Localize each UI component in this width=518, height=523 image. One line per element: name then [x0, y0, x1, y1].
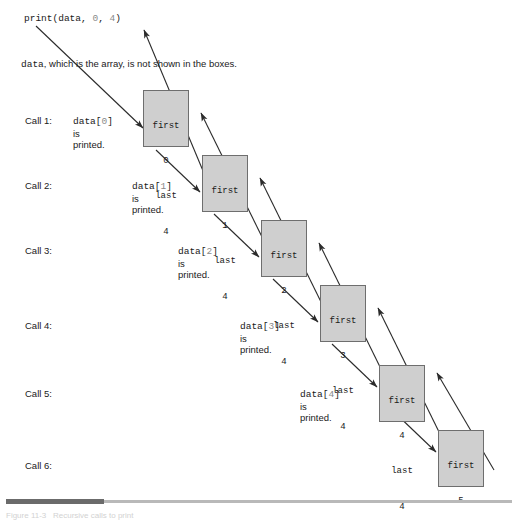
printed-var-5: data[	[300, 389, 329, 400]
printed-var-3: data[	[178, 246, 207, 257]
printed-close-3: ]	[212, 246, 218, 257]
array-note-mono-word: data	[21, 59, 44, 70]
frame-first-label-2: first	[203, 186, 247, 198]
frame-last-value-3: 4	[262, 357, 306, 369]
printed-close-1: ]	[107, 116, 113, 127]
header-call-mid: ,	[98, 13, 109, 24]
printed-text-4: data[3]isprinted.	[240, 320, 280, 356]
frame-last-value-5: 4	[380, 502, 424, 514]
printed-line2-1: is	[73, 128, 80, 139]
printed-text-1: data[0]isprinted.	[73, 115, 113, 151]
printed-line2-2: is	[132, 193, 139, 204]
printed-line3-5: printed.	[300, 412, 332, 423]
frame-last-value-2: 4	[203, 292, 247, 304]
call-label-4: Call 4:	[25, 320, 52, 331]
frame-first-label-6: first	[439, 461, 483, 473]
frame-last-label-5: last	[380, 466, 424, 478]
call-arrow-1	[36, 26, 143, 128]
printed-close-2: ]	[166, 181, 172, 192]
printed-line3-3: printed.	[178, 269, 210, 280]
frame-first-value-2: 1	[203, 221, 247, 233]
printed-line2-3: is	[178, 258, 185, 269]
frame-first-value-1: 0	[144, 156, 188, 168]
stack-frame-box-6: first 5 last 4	[438, 430, 484, 487]
call-label-3: Call 3:	[25, 245, 52, 256]
header-call-suffix: )	[115, 13, 121, 24]
array-note: data, which is the array, is not shown i…	[21, 58, 237, 70]
frame-first-value-3: 2	[262, 286, 306, 298]
printed-text-5: data[4]isprinted.	[300, 388, 340, 424]
caption-rule-dark	[6, 499, 104, 504]
frame-first-value-4: 3	[321, 351, 365, 363]
printed-line2-4: is	[240, 333, 247, 344]
printed-line3-1: printed.	[73, 139, 105, 150]
printed-line2-5: is	[300, 401, 307, 412]
header-call-prefix: print(data,	[24, 13, 92, 24]
header-call-expression: print(data, 0, 4)	[24, 13, 121, 24]
call-label-2: Call 2:	[25, 180, 52, 191]
figure-canvas: print(data, 0, 4) data, which is the arr…	[0, 0, 518, 523]
printed-var-1: data[	[73, 116, 102, 127]
printed-var-4: data[	[240, 321, 269, 332]
stack-frame-box-5: first 4 last 4	[379, 365, 425, 422]
frame-first-label-3: first	[262, 251, 306, 263]
printed-close-4: ]	[274, 321, 280, 332]
printed-var-2: data[	[132, 181, 161, 192]
printed-close-5: ]	[334, 389, 340, 400]
stack-frame-box-1: first 0 last 4	[143, 90, 189, 147]
frame-last-value-4: 4	[321, 422, 365, 434]
stack-frame-box-4: first 3 last 4	[320, 285, 366, 342]
call-label-5: Call 5:	[25, 388, 52, 399]
printed-line3-2: printed.	[132, 204, 164, 215]
call-label-6: Call 6:	[25, 460, 52, 471]
frame-first-value-5: 4	[380, 431, 424, 443]
printed-text-2: data[1]isprinted.	[132, 180, 172, 216]
array-note-rest: , which is the array, is not shown in th…	[44, 58, 237, 69]
frame-first-label-5: first	[380, 396, 424, 408]
frame-last-value-1: 4	[144, 227, 188, 239]
frame-first-label-1: first	[144, 121, 188, 133]
printed-text-3: data[2]isprinted.	[178, 245, 218, 281]
frame-first-label-4: first	[321, 316, 365, 328]
printed-line3-4: printed.	[240, 344, 272, 355]
call-label-1: Call 1:	[25, 115, 52, 126]
stack-frame-box-3: first 2 last 4	[261, 220, 307, 277]
stack-frame-box-2: first 1 last 4	[202, 155, 248, 212]
figure-caption: Figure 11-3 Recursive calls to print	[6, 511, 133, 520]
